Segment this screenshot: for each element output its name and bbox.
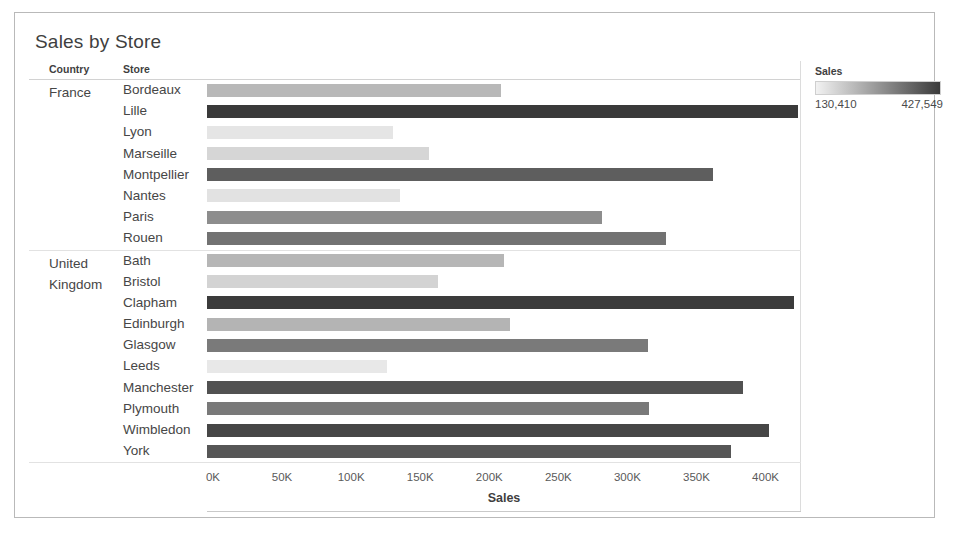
store-label: Marseille <box>123 146 177 161</box>
store-label: Manchester <box>123 380 194 395</box>
axis-tick: 350K <box>683 471 710 483</box>
chart-card: Sales by Store Country Store FranceBorde… <box>14 12 935 518</box>
table-row[interactable]: Leeds <box>29 356 801 377</box>
column-header-store: Store <box>123 63 150 75</box>
group-divider <box>29 462 801 463</box>
bar[interactable] <box>207 296 794 309</box>
store-label: Clapham <box>123 295 177 310</box>
bar[interactable] <box>207 126 393 139</box>
table-row[interactable]: Manchester <box>29 378 801 399</box>
store-label: Bristol <box>123 274 161 289</box>
bar[interactable] <box>207 147 429 160</box>
bar[interactable] <box>207 105 798 118</box>
store-label: Leeds <box>123 358 160 373</box>
chart-panel: Country Store FranceBordeauxLilleLyonMar… <box>29 61 801 511</box>
table-row[interactable]: Lyon <box>29 122 801 143</box>
table-row[interactable]: United KingdomBath <box>29 251 801 272</box>
table-row[interactable]: Nantes <box>29 186 801 207</box>
table-row[interactable]: Glasgow <box>29 335 801 356</box>
bar-cell <box>207 399 801 420</box>
store-label: Edinburgh <box>123 316 185 331</box>
table-row[interactable]: Paris <box>29 207 801 228</box>
table-row[interactable]: York <box>29 441 801 462</box>
x-axis-title: Sales <box>207 491 801 505</box>
store-label: Bordeaux <box>123 82 181 97</box>
country-label: France <box>49 82 121 103</box>
axis-tick: 200K <box>476 471 503 483</box>
color-legend: Sales 130,410 427,549 <box>815 65 945 112</box>
bar-cell <box>207 251 801 272</box>
bar-cell <box>207 272 801 293</box>
bar-cell <box>207 314 801 335</box>
bar[interactable] <box>207 360 387 373</box>
legend-values: 130,410 427,549 <box>815 98 945 112</box>
bar[interactable] <box>207 445 731 458</box>
axis-tick: 250K <box>545 471 572 483</box>
bar[interactable] <box>207 211 602 224</box>
store-label: Plymouth <box>123 401 179 416</box>
bar-rows: FranceBordeauxLilleLyonMarseilleMontpell… <box>29 80 801 463</box>
bar-cell <box>207 122 801 143</box>
bar-cell <box>207 228 801 249</box>
bar-cell <box>207 378 801 399</box>
column-header-country: Country <box>49 63 89 75</box>
page-title: Sales by Store <box>35 31 161 53</box>
table-row[interactable]: Edinburgh <box>29 314 801 335</box>
bar-cell <box>207 441 801 462</box>
bar-cell <box>207 186 801 207</box>
bar[interactable] <box>207 402 649 415</box>
bar[interactable] <box>207 424 769 437</box>
bar[interactable] <box>207 381 743 394</box>
bar[interactable] <box>207 318 510 331</box>
axis-tick: 100K <box>338 471 365 483</box>
bar-cell <box>207 420 801 441</box>
bar[interactable] <box>207 168 713 181</box>
table-row[interactable]: Clapham <box>29 293 801 314</box>
store-label: Montpellier <box>123 167 189 182</box>
store-label: Wimbledon <box>123 422 191 437</box>
bar[interactable] <box>207 189 400 202</box>
bar[interactable] <box>207 339 648 352</box>
store-label: Rouen <box>123 230 163 245</box>
table-row[interactable]: Montpellier <box>29 165 801 186</box>
column-header-row: Country Store <box>29 61 801 79</box>
store-label: Glasgow <box>123 337 176 352</box>
bar-cell <box>207 165 801 186</box>
bar-cell <box>207 335 801 356</box>
axis-tick: 150K <box>407 471 434 483</box>
legend-min-label: 130,410 <box>815 98 857 110</box>
bar-cell <box>207 207 801 228</box>
bar-cell <box>207 356 801 377</box>
table-row[interactable]: Bristol <box>29 272 801 293</box>
store-label: Paris <box>123 209 154 224</box>
axis-tick: 0K <box>206 471 220 483</box>
legend-max-label: 427,549 <box>901 98 943 110</box>
axis-tick: 400K <box>752 471 779 483</box>
table-row[interactable]: Lille <box>29 101 801 122</box>
store-label: York <box>123 443 150 458</box>
store-label: Nantes <box>123 188 166 203</box>
store-label: Lyon <box>123 124 152 139</box>
store-label: Bath <box>123 253 151 268</box>
bar-cell <box>207 293 801 314</box>
table-row[interactable]: Wimbledon <box>29 420 801 441</box>
table-row[interactable]: FranceBordeaux <box>29 80 801 101</box>
axis-line <box>207 511 801 512</box>
bar-cell <box>207 101 801 122</box>
store-label: Lille <box>123 103 147 118</box>
axis-tick: 300K <box>614 471 641 483</box>
bar[interactable] <box>207 275 438 288</box>
axis-tick: 50K <box>272 471 292 483</box>
legend-title: Sales <box>815 65 945 77</box>
bar[interactable] <box>207 84 501 97</box>
bar-cell <box>207 80 801 101</box>
table-row[interactable]: Plymouth <box>29 399 801 420</box>
bar[interactable] <box>207 254 504 267</box>
table-row[interactable]: Marseille <box>29 144 801 165</box>
bar-cell <box>207 144 801 165</box>
bar[interactable] <box>207 232 666 245</box>
table-row[interactable]: Rouen <box>29 228 801 249</box>
legend-gradient <box>815 81 941 95</box>
